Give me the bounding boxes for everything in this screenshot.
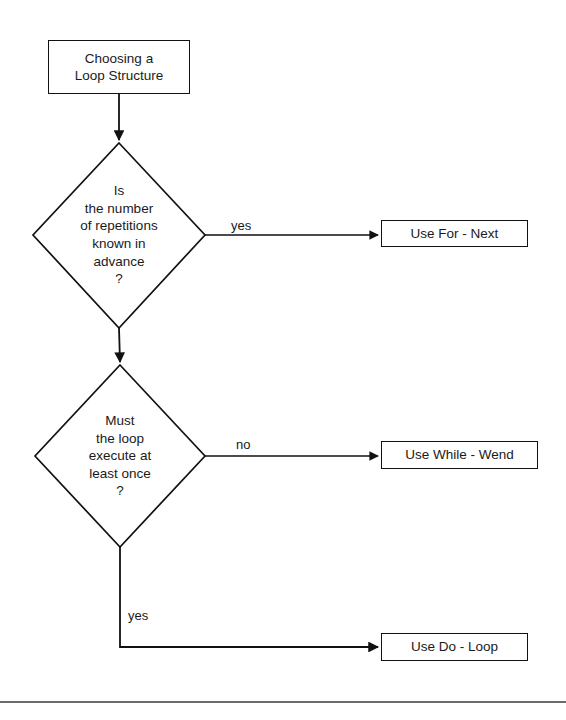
node-use-for-next[interactable]: Use For - Next xyxy=(381,220,528,247)
node-use-do-loop[interactable]: Use Do - Loop xyxy=(381,633,528,661)
edge-label-decision-1-yes: yes xyxy=(231,219,251,232)
node-use-while-wend[interactable]: Use While - Wend xyxy=(381,441,538,469)
node-decision-repetitions-known[interactable] xyxy=(33,142,205,328)
connector-decision-1-to-decision-2 xyxy=(119,328,120,362)
node-decision-execute-at-least-once[interactable] xyxy=(35,365,205,547)
flowchart-connectors xyxy=(0,0,566,720)
node-start[interactable]: Choosing a Loop Structure xyxy=(48,40,190,94)
connector-decision-2-yes xyxy=(120,547,378,647)
flowchart-canvas: Choosing a Loop Structure Use For - Next… xyxy=(0,0,566,720)
edge-label-decision-2-no: no xyxy=(236,438,250,451)
edge-label-decision-2-yes: yes xyxy=(128,609,148,622)
